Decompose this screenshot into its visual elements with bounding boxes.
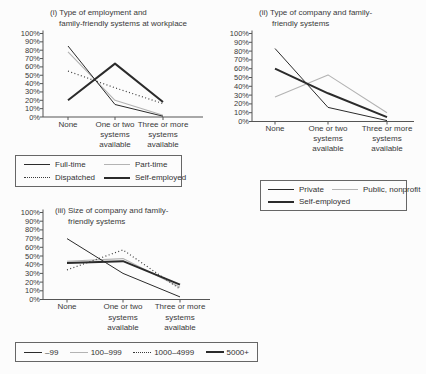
x-tick-label: available [147, 140, 179, 149]
legend-label: 5000+ [227, 348, 249, 357]
x-tick-label: systems [108, 313, 137, 322]
y-tick-label: 100% [230, 29, 250, 38]
company-type-legend: PrivatePublic, nonprofitSelf-employed [260, 180, 407, 211]
legend-label: Private [299, 185, 324, 194]
y-tick-label: 100% [21, 208, 41, 217]
legend-label: Part-time [135, 160, 167, 169]
y-tick-label: 70% [25, 234, 40, 243]
y-tick-label: 0% [238, 117, 249, 126]
legend-item: Dispatched [24, 173, 104, 182]
y-tick-label: 30% [234, 91, 249, 100]
y-tick-label: 20% [25, 278, 40, 287]
series-line-Full-time [68, 46, 163, 116]
gray-line-sample-icon [70, 352, 88, 353]
legend-item: 1000–4999 [133, 348, 194, 357]
series-line-Self-employed [68, 64, 163, 102]
y-tick-label: 90% [234, 38, 249, 47]
legend-item: Part-time [104, 160, 186, 169]
legend-label: 1000–4999 [154, 348, 194, 357]
legend-item: Private [268, 185, 332, 194]
legend-label: Dispatched [55, 173, 95, 182]
thin-line-sample-icon [268, 189, 294, 190]
series-line-5000+ [67, 261, 180, 285]
figure-canvas: (i) Type of employment and family-friend… [0, 0, 426, 374]
y-tick-label: 0% [29, 295, 40, 304]
x-tick-label: One or two [308, 124, 348, 133]
y-tick-label: 50% [25, 252, 40, 261]
x-tick-label: Three or more [138, 120, 189, 129]
y-tick-label: 10% [234, 108, 249, 117]
legend-item: –99 [24, 348, 58, 357]
legend-item: Full-time [24, 160, 104, 169]
legend-label: Self-employed [299, 197, 350, 206]
thin-line-sample-icon [24, 352, 42, 353]
x-tick-label: systems [313, 134, 342, 143]
employment-legend: Full-timePart-timeDispatchedSelf-employe… [15, 155, 182, 187]
y-tick-label: 80% [25, 225, 40, 234]
x-tick-label: systems [100, 130, 129, 139]
y-tick-label: 40% [25, 260, 40, 269]
legend-item: 5000+ [206, 348, 249, 357]
x-tick-label: available [99, 140, 131, 149]
x-tick-label: systems [372, 134, 401, 143]
legend-label: Self-employed [135, 173, 186, 182]
x-tick-label: systems [148, 130, 177, 139]
x-tick-label: Three or more [362, 124, 413, 133]
x-tick-label: None [265, 124, 285, 133]
legend-item: Self-employed [268, 197, 332, 206]
x-tick-label: systems [165, 313, 194, 322]
y-tick-label: 10% [25, 286, 40, 295]
legend-label: Full-time [55, 160, 86, 169]
legend-item: Public, nonprofit [332, 185, 420, 194]
legend-item: Self-employed [104, 173, 186, 182]
series-line-Part-time [68, 52, 163, 115]
dotted-line-sample-icon [24, 177, 50, 178]
x-tick-label: One or two [95, 120, 135, 129]
series-line-1000–4999 [67, 250, 180, 289]
x-tick-label: available [107, 323, 139, 332]
legend-item: 100–999 [70, 348, 122, 357]
legend-label: 100–999 [91, 348, 122, 357]
y-tick-label: 20% [234, 99, 249, 108]
dotted-line-sample-icon [133, 352, 151, 353]
y-tick-label: 40% [234, 82, 249, 91]
y-tick-label: 60% [25, 243, 40, 252]
x-tick-label: None [58, 120, 78, 129]
thin-line-sample-icon [24, 164, 50, 165]
x-tick-label: available [164, 323, 196, 332]
y-tick-label: 0% [29, 113, 40, 122]
y-tick-label: 70% [234, 55, 249, 64]
x-tick-label: One or two [103, 302, 143, 311]
series-line-Dispatched [68, 71, 163, 104]
x-tick-label: None [57, 302, 77, 311]
x-tick-label: available [312, 144, 344, 153]
y-tick-label: 60% [234, 64, 249, 73]
thick-line-sample-icon [268, 201, 294, 203]
legend-label: –99 [45, 348, 58, 357]
company-size-legend: –99100–9991000–49995000+ [15, 342, 258, 362]
thick-line-sample-icon [206, 351, 224, 353]
x-tick-label: available [371, 144, 403, 153]
gray-line-sample-icon [332, 189, 358, 190]
y-tick-label: 30% [25, 269, 40, 278]
series-line-–99 [67, 239, 180, 297]
series-line-Self-employed [275, 69, 387, 117]
legend-label: Public, nonprofit [363, 185, 420, 194]
y-tick-label: 50% [234, 73, 249, 82]
thick-line-sample-icon [104, 177, 130, 179]
x-tick-label: Three or more [155, 302, 206, 311]
y-tick-label: 80% [234, 47, 249, 56]
gray-line-sample-icon [104, 164, 130, 165]
y-tick-label: 90% [25, 217, 40, 226]
